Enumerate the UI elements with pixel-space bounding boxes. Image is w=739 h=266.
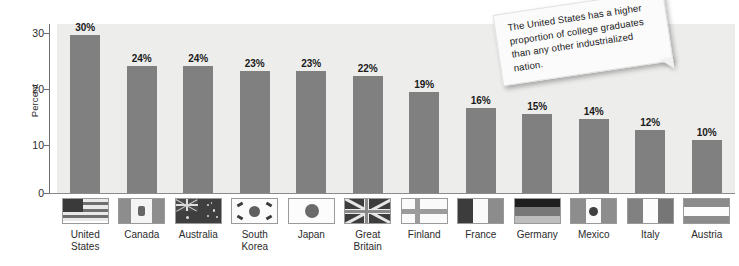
bar-united-states[interactable] (70, 35, 100, 193)
legend-item-south-korea[interactable]: South Korea (227, 198, 284, 260)
legend-item-australia[interactable]: Australia (170, 198, 227, 260)
bar-label-germany: 15% (509, 101, 566, 112)
legend-item-finland[interactable]: Finland (396, 198, 453, 260)
flag-south-korea-icon (231, 198, 278, 224)
bar-canada[interactable] (127, 66, 157, 193)
bar-label-italy: 12% (622, 117, 679, 128)
y-tick-10: 10 (18, 140, 44, 151)
country-legend: United States Canada (57, 198, 735, 260)
legend-item-france[interactable]: France (453, 198, 510, 260)
legend-item-germany[interactable]: Germany (509, 198, 566, 260)
y-tick-0: 0 (18, 188, 44, 199)
flag-italy-icon (627, 198, 674, 224)
callout-folded-corner-icon (660, 58, 674, 71)
flag-united-states-icon (62, 198, 109, 224)
country-label-canada: Canada (124, 229, 159, 241)
legend-item-italy[interactable]: Italy (622, 198, 679, 260)
callout-note-text: The United States has a higher proportio… (494, 0, 671, 77)
bar-germany[interactable] (522, 114, 552, 193)
flag-mexico-icon (570, 198, 617, 224)
country-label-united-states: United States (71, 229, 100, 252)
bar-italy[interactable] (635, 130, 665, 193)
bar-austria[interactable] (692, 140, 722, 193)
bar-slot-canada: 24% (114, 24, 171, 193)
legend-item-great-britain[interactable]: Great Britain (340, 198, 397, 260)
country-label-france: France (465, 229, 496, 241)
bar-label-finland: 19% (396, 79, 453, 90)
bar-label-canada: 24% (114, 53, 171, 64)
flag-germany-icon (514, 198, 561, 224)
flag-australia-icon (175, 198, 222, 224)
bar-slot-finland: 19% (396, 24, 453, 193)
country-label-finland: Finland (408, 229, 441, 241)
country-label-great-britain: Great Britain (354, 229, 382, 252)
y-axis-tick-labels: 30 20 10 0 (14, 0, 44, 266)
bar-france[interactable] (466, 108, 496, 193)
legend-item-mexico[interactable]: Mexico (566, 198, 623, 260)
flag-canada-icon (118, 198, 165, 224)
bar-label-south-korea: 23% (227, 58, 284, 69)
country-label-australia: Australia (179, 229, 218, 241)
bar-south-korea[interactable] (240, 71, 270, 193)
bar-label-austria: 10% (679, 127, 736, 138)
country-label-japan: Japan (298, 229, 325, 241)
country-label-italy: Italy (641, 229, 659, 241)
bar-slot-south-korea: 23% (227, 24, 284, 193)
legend-item-japan[interactable]: Japan (283, 198, 340, 260)
legend-item-united-states[interactable]: United States (57, 198, 114, 260)
bar-australia[interactable] (183, 66, 213, 193)
country-label-germany: Germany (517, 229, 558, 241)
legend-item-canada[interactable]: Canada (114, 198, 171, 260)
y-axis-line (49, 24, 50, 194)
bar-japan[interactable] (296, 71, 326, 193)
bar-label-japan: 23% (283, 58, 340, 69)
flag-finland-icon (401, 198, 448, 224)
flag-japan-icon (288, 198, 335, 224)
y-tick-30: 30 (18, 28, 44, 39)
flag-france-icon (457, 198, 504, 224)
bar-slot-great-britain: 22% (340, 24, 397, 193)
country-label-austria: Austria (691, 229, 722, 241)
flag-austria-icon (683, 198, 730, 224)
bar-slot-united-states: 30% (57, 24, 114, 193)
bar-slot-japan: 23% (283, 24, 340, 193)
bar-mexico[interactable] (579, 119, 609, 193)
bar-slot-australia: 24% (170, 24, 227, 193)
bar-finland[interactable] (409, 92, 439, 193)
bar-label-australia: 24% (170, 53, 227, 64)
bar-label-great-britain: 22% (340, 63, 397, 74)
bar-label-united-states: 30% (57, 22, 114, 33)
y-tick-20: 20 (18, 84, 44, 95)
legend-item-austria[interactable]: Austria (679, 198, 736, 260)
flag-great-britain-icon (344, 198, 391, 224)
country-label-mexico: Mexico (578, 229, 610, 241)
bar-label-france: 16% (453, 95, 510, 106)
bar-label-mexico: 14% (566, 106, 623, 117)
country-label-south-korea: South Korea (241, 229, 268, 252)
bar-great-britain[interactable] (353, 76, 383, 193)
bar-chart: Percent 30 20 10 0 30% 24% 24% 23% 23% (0, 0, 739, 266)
bar-slot-austria: 10% (679, 24, 736, 193)
x-axis-baseline (49, 193, 735, 194)
